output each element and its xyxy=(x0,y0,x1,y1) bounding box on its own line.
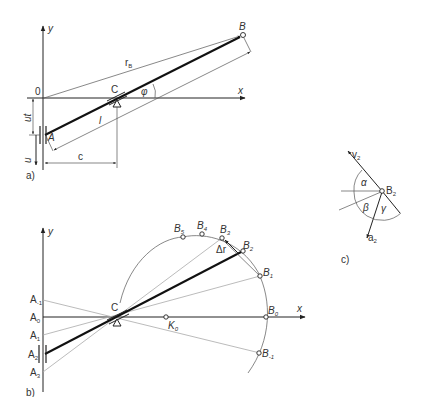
bar-current xyxy=(45,251,243,354)
tangent-line xyxy=(339,192,381,210)
label-a0: A0 xyxy=(30,312,41,324)
rb-label: rB xyxy=(125,57,132,69)
label-b4: B4 xyxy=(197,220,208,232)
delta-r-arrow xyxy=(225,240,238,253)
label-u: u xyxy=(22,157,33,163)
pivot-support-b-icon xyxy=(113,319,121,326)
point-b5 xyxy=(181,235,185,239)
label-b0: B0 xyxy=(268,305,279,317)
label-b: B xyxy=(239,21,246,32)
point-b1 xyxy=(258,274,262,278)
label-k0: K0 xyxy=(168,320,179,332)
panel-a: y x 0 rB B A C φ l c u xyxy=(22,21,251,181)
label-alpha: α xyxy=(361,177,367,188)
y-axis-label-b: y xyxy=(47,226,54,237)
dim-l-line xyxy=(54,52,250,150)
label-a-minus1: A-1 xyxy=(30,294,43,306)
kinematics-diagram: y x 0 rB B A C φ l c u xyxy=(0,0,423,397)
label-v2: v2 xyxy=(352,149,361,161)
label-a3: A3 xyxy=(30,367,41,379)
label-delta-r: Δr xyxy=(216,244,227,255)
point-b-minus1 xyxy=(257,351,261,355)
label-l: l xyxy=(99,115,102,126)
dim-l-ext-b xyxy=(244,38,251,52)
caption-c: c) xyxy=(341,254,349,265)
x-axis-label-a: x xyxy=(237,85,244,96)
angle-phi-arc xyxy=(153,84,155,98)
label-phi: φ xyxy=(141,86,148,97)
panel-c: v2 a2 α β γ B2 c) xyxy=(339,149,401,265)
label-ut: ut xyxy=(22,112,33,122)
origin-label: 0 xyxy=(35,86,41,97)
y-axis-label-a: y xyxy=(47,23,54,34)
bar-position-3 xyxy=(43,238,222,372)
label-beta: β xyxy=(362,202,369,213)
x-axis-label-b: x xyxy=(296,303,303,314)
label-a2: A2 xyxy=(28,349,39,361)
label-b2-b: B2 xyxy=(243,240,254,252)
point-b3 xyxy=(220,236,224,240)
point-b2 xyxy=(380,189,385,194)
caption-a: a) xyxy=(26,170,35,181)
point-k0 xyxy=(164,315,168,319)
caption-b: b) xyxy=(26,387,35,397)
label-b5: B5 xyxy=(174,223,185,235)
label-a2: a2 xyxy=(368,232,378,244)
label-c: C xyxy=(111,84,118,95)
label-b3: B3 xyxy=(220,224,231,236)
point-b4 xyxy=(200,232,204,236)
panel-b: y x Δr C A-1 A0 A1 A2 A3 B5 B4 xyxy=(26,220,305,397)
label-a1: A1 xyxy=(30,330,41,342)
label-b-minus1: B-1 xyxy=(262,348,274,360)
label-c-dim: c xyxy=(78,151,83,162)
label-gamma: γ xyxy=(381,203,387,214)
point-b xyxy=(241,33,246,38)
label-c-b: C xyxy=(111,302,118,313)
label-b2: B2 xyxy=(386,185,397,197)
label-b1: B1 xyxy=(263,267,273,279)
